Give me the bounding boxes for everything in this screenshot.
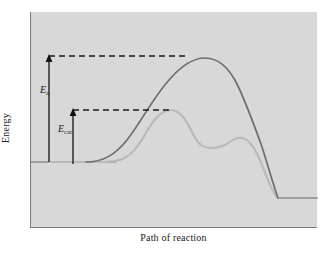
catalyzed-activation-energy-label: Ecat — [58, 123, 72, 135]
ea-subscript: a — [46, 89, 49, 96]
y-axis-title: Energy — [0, 88, 12, 168]
x-axis-title: Path of reaction — [30, 232, 317, 244]
uncatalyzed-reaction-curve — [86, 58, 278, 198]
activation-energy-label: Ea — [40, 84, 49, 96]
plot-svg — [31, 12, 318, 228]
ecat-subscript: cat — [64, 128, 72, 135]
energy-diagram-figure: Ea Ecat Energy Path of reaction — [0, 0, 331, 253]
catalyzed-reaction-curve — [49, 110, 278, 198]
ea-measure-arrow — [46, 54, 53, 162]
ecat-measure-arrow — [70, 108, 77, 164]
plot-panel: Ea Ecat — [30, 12, 317, 228]
